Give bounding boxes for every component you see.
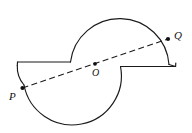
point-marker-P [20,86,24,90]
left-small-arc [17,66,24,86]
point-marker-Q [166,37,170,41]
lower-large-arc [24,67,121,125]
point-label-O: O [92,68,99,78]
point-label-P: P [9,91,16,102]
point-marker-O [93,62,97,66]
upper-large-arc [71,19,170,65]
point-label-Q: Q [174,30,182,41]
geometry-figure: P O Q [0,0,192,133]
